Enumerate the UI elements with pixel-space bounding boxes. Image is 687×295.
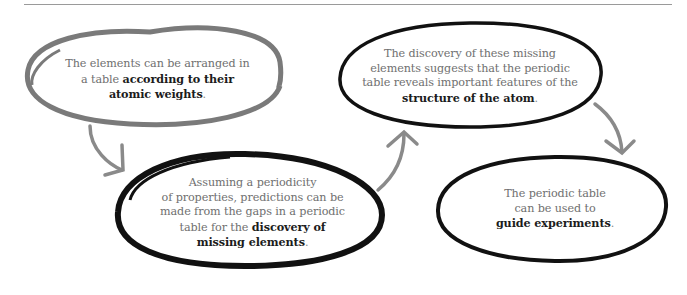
node-4: The periodic table can be used to guide … — [475, 187, 635, 232]
node-3: The discovery of these missing elements … — [355, 47, 585, 106]
node-1-bold-1: according to their — [123, 72, 234, 86]
arrow-n1-to-n2 — [90, 126, 123, 175]
node-3-end: . — [535, 92, 538, 105]
node-3-line-1: The discovery of these missing — [384, 47, 556, 60]
node-2-line-3: made from the gaps in a periodic — [160, 205, 345, 218]
node-1-bold-2: atomic weights — [109, 87, 203, 101]
node-3-line-3: table reveals important features of the — [362, 76, 578, 89]
arrow-n3-to-n4 — [595, 104, 634, 153]
node-2-line-4: table for the — [180, 221, 252, 234]
node-2-bold-1: discovery of — [252, 220, 326, 234]
flow-diagram — [0, 0, 687, 295]
node-2-line-1: Assuming a periodicity — [189, 176, 317, 189]
node-4-line-1: The periodic table — [504, 187, 606, 200]
node-4-end: . — [611, 217, 614, 230]
node-1-line-2: a table — [81, 73, 123, 86]
node-3-line-2: elements suggests that the periodic — [370, 62, 570, 75]
node-2: Assuming a periodicity of properties, pr… — [145, 176, 360, 251]
node-4-line-2: can be used to — [514, 202, 595, 215]
arrow-n2-to-n3 — [378, 132, 417, 190]
node-2-line-2: of properties, predictions can be — [162, 191, 344, 204]
node-1: The elements can be arranged in a table … — [50, 57, 265, 103]
node-1-line-1: The elements can be arranged in — [65, 57, 249, 70]
node-1-end: . — [203, 88, 206, 101]
node-4-bold-1: guide experiments — [496, 216, 611, 230]
node-2-bold-2: missing elements — [197, 235, 305, 249]
node-2-end: . — [305, 236, 308, 249]
node-3-bold-1: structure of the atom — [402, 91, 535, 105]
